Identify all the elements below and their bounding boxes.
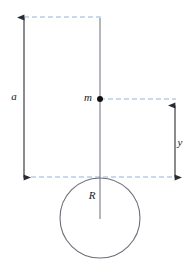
figure-canvas: a m y R: [0, 0, 188, 267]
physics-diagram-svg: a m y R: [0, 0, 188, 267]
label-a: a: [11, 90, 17, 102]
label-m: m: [84, 91, 92, 103]
point-mass-dot: [97, 96, 103, 102]
label-R: R: [88, 189, 96, 201]
label-y: y: [177, 136, 183, 148]
